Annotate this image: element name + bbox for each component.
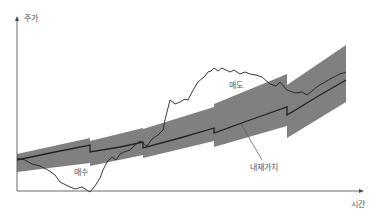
sell-annotation: 매도 xyxy=(229,82,243,90)
intrinsic-annotation: 내재가치 xyxy=(250,164,278,172)
x-axis-arrow-icon xyxy=(359,189,364,193)
chart-container: 주가 시간 매도 매수 내재가치 xyxy=(0,0,379,220)
x-axis-label: 시간 xyxy=(351,201,365,209)
y-axis-label: 주가 xyxy=(24,15,38,23)
chart-svg xyxy=(0,0,379,220)
y-axis-arrow-icon xyxy=(15,16,19,21)
buy-annotation: 매수 xyxy=(74,169,88,177)
